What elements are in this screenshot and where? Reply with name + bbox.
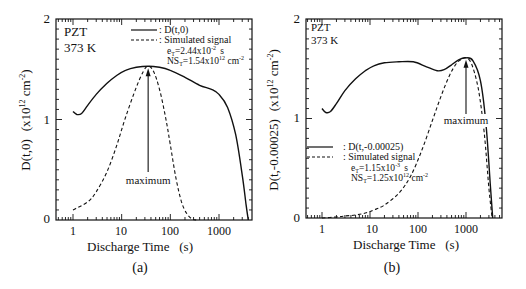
figure: 0 1 2 1 10 100 1000 Discharge Time (s) D… <box>0 0 526 289</box>
legend-param-nst: NST=1.54x1012 cm-2 <box>167 55 244 67</box>
curve-simulated-b <box>322 58 492 218</box>
maximum-label-a: maximum <box>126 174 171 186</box>
y-tick-label: 2 <box>294 11 301 26</box>
y-tick-label: 1 <box>44 112 51 127</box>
x-axis-label: Discharge Time (s) <box>353 237 459 252</box>
legend-dashed-label: : Simulated signal <box>343 151 415 162</box>
sample-label: PZT <box>311 21 331 33</box>
x-tick-label: 10 <box>366 222 378 236</box>
sample-label: PZT <box>64 24 87 39</box>
y-axis-label: D(t,-0.00025)(x1012 cm-2) <box>266 49 281 191</box>
legend-dashed-label: : Simulated signal <box>159 34 231 45</box>
maximum-label-b: maximum <box>444 114 489 126</box>
panel-b: 0 1 2 1 10 100 1000 Discharge Time (s) D… <box>266 11 502 276</box>
x-axis-label: Discharge Time (s) <box>87 239 193 254</box>
temperature-label: 373 K <box>311 34 338 46</box>
y-tick-label: 0 <box>294 210 301 225</box>
x-tick-label: 1 <box>70 224 76 238</box>
panel-label-b: (b) <box>384 260 401 276</box>
arrow-head-icon <box>464 60 469 68</box>
panel-a: 0 1 2 1 10 100 1000 Discharge Time (s) D… <box>18 11 252 276</box>
curve-measured-b <box>322 58 493 218</box>
curve-simulated-a <box>73 66 196 220</box>
x-tick-label: 100 <box>409 222 427 236</box>
x-tick-label: 1 <box>319 222 325 236</box>
y-tick-label: 2 <box>44 11 51 26</box>
panel-label-a: (a) <box>132 260 148 276</box>
y-tick-label: 0 <box>44 211 51 226</box>
temperature-label: 373 K <box>64 40 97 55</box>
legend-a: : D(t,0) : Simulated signal eT=2.44x10-2… <box>131 24 244 67</box>
x-tick-label: 10 <box>115 224 127 238</box>
legend-param-nst: NST=1.25x1012 cm-2 <box>351 172 428 184</box>
curve-measured-a <box>73 66 248 220</box>
x-tick-label: 1000 <box>454 222 478 236</box>
x-tick-label: 100 <box>161 224 179 238</box>
y-tick-label: 1 <box>294 110 301 125</box>
arrow-head-icon <box>146 68 151 76</box>
x-tick-label: 1000 <box>207 224 231 238</box>
y-axis-label: D(t,0)(x1012 cm-2) <box>18 69 33 170</box>
